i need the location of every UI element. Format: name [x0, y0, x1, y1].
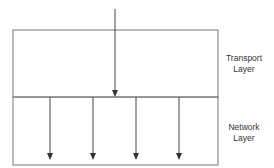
transport-layer-label-line1: Transport — [216, 53, 272, 64]
input-arrow — [112, 9, 118, 97]
network-layer-label: Network Layer — [216, 122, 272, 144]
output-arrow — [47, 97, 53, 160]
output-arrow — [176, 97, 182, 160]
output-arrow — [90, 97, 96, 160]
network-layer-box — [13, 97, 218, 165]
transport-layer-label: Transport Layer — [216, 53, 272, 75]
network-layer-label-line1: Network — [216, 122, 272, 133]
network-layer-label-line2: Layer — [216, 133, 272, 144]
output-arrow — [133, 97, 139, 160]
transport-layer-label-line2: Layer — [216, 64, 272, 75]
